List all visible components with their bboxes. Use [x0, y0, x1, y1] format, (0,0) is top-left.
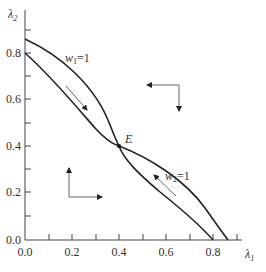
w1-label: w1=1	[65, 51, 90, 66]
x-axis-label: λ1	[244, 247, 254, 263]
x-tick-label: 0.0	[18, 245, 33, 259]
w1-inner-curve	[25, 53, 119, 146]
y-tick-label: 0.8	[6, 46, 21, 60]
y-tick-label: 0.6	[6, 92, 21, 106]
y-tick-label: 0.2	[6, 185, 21, 199]
y-axis-label: λ2	[7, 7, 17, 23]
y-tick-label: 0.0	[6, 233, 21, 247]
x-tick-label: 0.6	[159, 245, 174, 259]
y-tick-label: 0.4	[6, 139, 21, 153]
point-e-label: E	[124, 132, 133, 146]
equilibrium-point	[117, 144, 121, 148]
w2-inner-curve	[119, 146, 213, 240]
phase-diagram: 0.0 0.2 0.4 0.6 0.8 0.0 0.2 0.4 0.6 0.8 …	[0, 0, 266, 272]
x-tick-label: 0.4	[112, 245, 127, 259]
upper-right-direction-arrows	[147, 85, 179, 111]
w2-label: w2=1	[165, 169, 190, 184]
x-tick-label: 0.2	[65, 245, 80, 259]
lower-left-direction-arrows	[69, 168, 102, 197]
x-tick-label: 0.8	[206, 245, 221, 259]
